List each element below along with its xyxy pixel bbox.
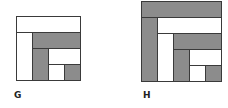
blank-region (189, 65, 206, 82)
shaded-region (64, 64, 81, 81)
shaded-region (141, 1, 222, 18)
shaded-region (32, 48, 49, 81)
blank-region (189, 49, 222, 66)
blank-region (157, 33, 174, 82)
shaded-region (205, 65, 222, 82)
blank-region (16, 32, 33, 81)
shaded-region (173, 33, 222, 50)
blank-region (157, 17, 222, 34)
shaded-region (141, 17, 158, 82)
shaded-region (173, 49, 190, 82)
blank-region (48, 64, 65, 81)
figure-label-h: H (143, 91, 151, 100)
shaded-region (32, 32, 81, 49)
nested-square-figure-h (141, 1, 221, 81)
figure-label-g: G (14, 91, 21, 100)
blank-region (16, 16, 81, 33)
nested-square-figure-g (16, 16, 80, 80)
blank-region (48, 48, 81, 65)
